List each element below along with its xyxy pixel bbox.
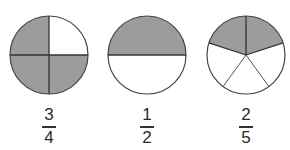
denominator: 2 — [132, 129, 162, 146]
numerator: 1 — [132, 106, 162, 123]
circle-two-fifths — [207, 16, 285, 94]
denominator: 5 — [231, 129, 261, 146]
circle-three-quarters — [10, 16, 88, 94]
numerator: 2 — [231, 106, 261, 123]
shaded-region — [108, 16, 186, 55]
circle-one-half — [108, 16, 186, 94]
denominator: 4 — [34, 129, 64, 146]
numerator: 3 — [34, 106, 64, 123]
